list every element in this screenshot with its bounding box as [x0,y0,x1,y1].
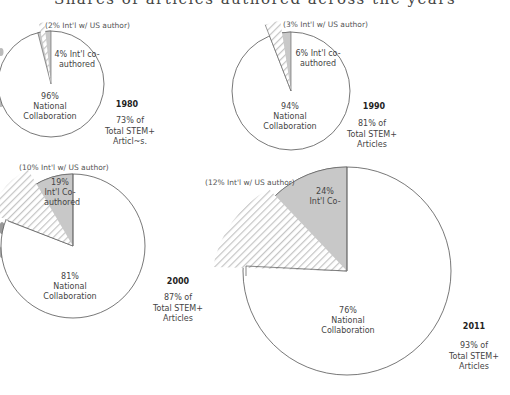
share-2000-line1: 87% of [148,293,208,304]
intl-pct-2000: 19% [44,178,76,188]
share-1990-line1: 81% of [342,119,402,130]
nat-2-1980: Collaboration [10,112,90,122]
share-2011-line1: 93% of [444,341,504,352]
nat-2-1990: Collaboration [250,122,330,132]
year-1990: 1990 [359,102,389,111]
share-1990: 81% of Total STEM+ Articles [342,119,402,151]
intl-2-2000: authored [44,198,76,208]
intl-word-1990: authored [291,59,345,69]
share-2000-line3: Articles [148,314,208,325]
share-2011: 93% of Total STEM+ Articles [444,341,504,373]
intl-pct-1980: 4% Int'l co- [52,50,102,60]
label-national-2011: 76% National Collaboration [308,306,388,336]
intl-pct-2011: 24% [300,187,350,197]
year-2000: 2000 [163,277,193,286]
share-1980-line1: 73% of [100,116,160,127]
label-intl-1980: 4% Int'l co- authored [52,50,102,70]
label-national-1980: 96% National Collaboration [10,92,90,122]
label-us-author-2011: (12% Int'l w/ US author) [205,178,295,187]
intl-1-2011: Int'l Co- [300,197,350,207]
nat-2-2000: Collaboration [30,292,110,302]
nat-2-2011: Collaboration [308,326,388,336]
label-intl-2000: 19% Int'l Co- authored [44,178,76,208]
share-1990-line2: Total STEM+ [342,130,402,141]
intl-1-2000: Int'l Co- [44,188,76,198]
nat-pct-2011: 76% [308,306,388,316]
share-1980: 73% of Total STEM+ Articl~s. [100,116,160,148]
share-2011-line2: Total STEM+ [444,352,504,363]
nat-pct-1980: 96% [10,92,90,102]
year-1980: 1980 [112,100,142,109]
share-1990-line3: Articles [342,140,402,151]
label-us-author-1990: (3% Int'l w/ US author) [283,20,368,29]
intl-word-1980: authored [52,60,102,70]
label-national-1990: 94% National Collaboration [250,102,330,132]
share-1980-line3: Articl~s. [100,137,160,148]
share-2000-line2: Total STEM+ [148,304,208,315]
nat-1-1980: National [10,102,90,112]
nat-1-2000: National [30,282,110,292]
nat-pct-1990: 94% [250,102,330,112]
label-us-author-1980: (2% Int'l w/ US author) [45,21,130,30]
nat-pct-2000: 81% [30,272,110,282]
share-2011-line3: Articles [444,362,504,373]
share-1980-line2: Total STEM+ [100,127,160,138]
share-2000: 87% of Total STEM+ Articles [148,293,208,325]
label-intl-2011: 24% Int'l Co- [300,187,350,207]
label-us-author-2000: (10% Int'l w/ US author) [19,163,109,172]
intl-pct-1990: 6% Int'l co- [291,49,345,59]
label-intl-1990: 6% Int'l co- authored [291,49,345,69]
year-2011: 2011 [459,322,489,331]
nat-1-1990: National [250,112,330,122]
nat-1-2011: National [308,316,388,326]
label-national-2000: 81% National Collaboration [30,272,110,302]
